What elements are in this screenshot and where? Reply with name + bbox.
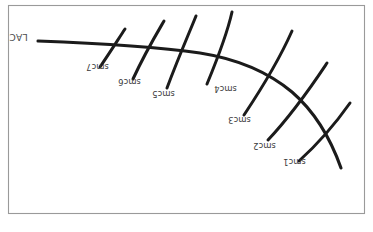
smc-curve-4 — [207, 12, 232, 84]
smc-curve-6 — [133, 21, 164, 79]
lac-curve — [38, 41, 341, 168]
label-smc3: smc3 — [228, 116, 251, 124]
smc-curve-2 — [268, 63, 327, 140]
label-smc4: smc4 — [214, 85, 237, 93]
label-lac: LAC — [9, 33, 28, 42]
diagram-canvas — [0, 0, 373, 232]
label-smc1: smc1 — [283, 158, 306, 166]
label-smc5: smc5 — [152, 90, 175, 98]
label-smc2: smc2 — [253, 142, 276, 150]
smc-curve-3 — [244, 31, 292, 115]
figure-container: LAC smc7 smc6 smc5 smc4 smc3 smc2 smc1 — [0, 0, 373, 232]
label-smc7: smc7 — [86, 63, 109, 71]
smc-curve-7 — [100, 29, 125, 67]
label-smc6: smc6 — [118, 78, 141, 86]
